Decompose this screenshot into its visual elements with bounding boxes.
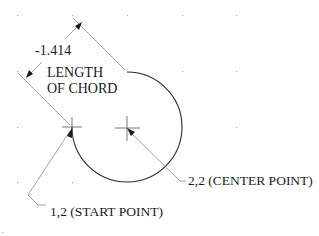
start-point-leader [28, 128, 72, 205]
arrowhead-icon [127, 128, 135, 136]
dimension-caption-line2: OF CHORD [47, 82, 117, 96]
diagram-graphics [0, 0, 319, 236]
center-point-label: 2,2 (CENTER POINT) [188, 174, 313, 188]
diagram-canvas: -1.414 LENGTH OF CHORD 2,2 (CENTER POINT… [0, 0, 319, 236]
arrowhead-icon [26, 70, 33, 78]
dimension-caption-line1: LENGTH [47, 66, 103, 80]
start-point-label: 1,2 (START POINT) [50, 205, 163, 219]
arrowhead-icon [67, 128, 72, 138]
dimension-value: -1.414 [35, 44, 71, 58]
